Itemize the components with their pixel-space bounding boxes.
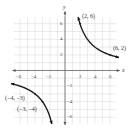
point-label-6-2: (6, 2) <box>113 45 126 52</box>
point-label-neg4-neg3: (−4, −3) <box>5 95 25 102</box>
y-tick-label: −4 <box>67 99 73 104</box>
point-label-neg3-neg4: (−3, −4) <box>17 106 37 113</box>
data-point <box>79 23 81 25</box>
x-tick-label: −4 <box>31 74 37 79</box>
x-axis-label: x <box>121 67 125 73</box>
point-label-2-6: (2, 6) <box>82 13 95 20</box>
y-tick-label: −2 <box>67 83 73 88</box>
y-tick-label: −6 <box>67 114 73 119</box>
x-axis-arrow-icon <box>117 69 120 72</box>
data-point <box>42 101 44 103</box>
x-tick-label: −6 <box>16 74 22 79</box>
x-axis-arrow-icon <box>13 69 16 72</box>
x-tick-label: −2 <box>46 74 52 79</box>
hyperbola-branch-quadrant-3 <box>11 84 52 124</box>
hyperbola-chart: −6 −4 −2 2 4 6 6 4 2 −2 −4 −6 x y (2, 6)… <box>0 0 131 129</box>
y-axis-label: y <box>62 4 66 10</box>
data-point <box>34 93 36 95</box>
hyperbola-branch-quadrant-1 <box>78 17 119 57</box>
y-axis-arrow-icon <box>64 122 67 125</box>
data-point <box>109 54 111 56</box>
y-tick-label: 2 <box>60 52 63 57</box>
y-tick-label: 4 <box>60 36 63 41</box>
y-axis-arrow-icon <box>64 11 67 14</box>
